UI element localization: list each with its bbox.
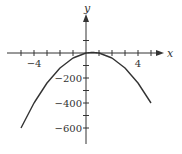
x-tick-label: −4	[27, 58, 42, 69]
y-axis-arrow-icon	[83, 14, 89, 22]
x-tick-label: 4	[135, 58, 141, 69]
parabola-chart: −44−200−400−600xy	[0, 0, 182, 154]
y-tick-label: −400	[55, 98, 82, 109]
y-axis-label: y	[83, 2, 91, 15]
y-tick-label: −200	[55, 73, 82, 84]
x-axis-arrow-icon	[156, 50, 164, 56]
x-axis-label: x	[167, 47, 174, 60]
y-tick-label: −600	[55, 123, 82, 134]
